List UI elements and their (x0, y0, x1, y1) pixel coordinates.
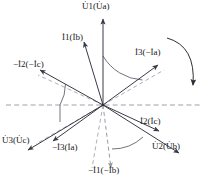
guide-upper-left (38, 75, 103, 105)
guide-lower-center (92, 105, 103, 168)
label-i2: İ2(İc) (140, 117, 160, 126)
phasor-vectors (28, 19, 179, 153)
phasor-i3 (103, 65, 158, 105)
rotation-arrow (167, 38, 193, 85)
angle-arc-upper (103, 56, 143, 80)
guide-upper-right (103, 70, 164, 105)
angle-arcs (60, 56, 143, 149)
origin-point (102, 104, 105, 107)
phasor-diagram-figure: U̇1(U̇a) İ1(İb) İ3(−İa) −İ2(−İc) U… (0, 0, 212, 187)
label-u1: U̇1(U̇a) (82, 2, 110, 11)
label-i3: İ3(−İa) (135, 48, 161, 57)
angle-arc-lower (112, 137, 143, 149)
phasor-ni3 (53, 105, 103, 141)
label-ni3: −İ3(İa) (52, 143, 78, 152)
phasor-ni1 (103, 105, 111, 168)
phasor-canvas (0, 0, 212, 187)
label-u2: U̇2(U̇b) (152, 142, 180, 151)
label-ni2: −İ2(−İc) (13, 60, 44, 69)
label-ni1: −İ1(−İb) (88, 166, 119, 175)
label-u3: U̇3(U̇c) (2, 136, 30, 145)
label-i1: İ1(İb) (62, 33, 83, 42)
